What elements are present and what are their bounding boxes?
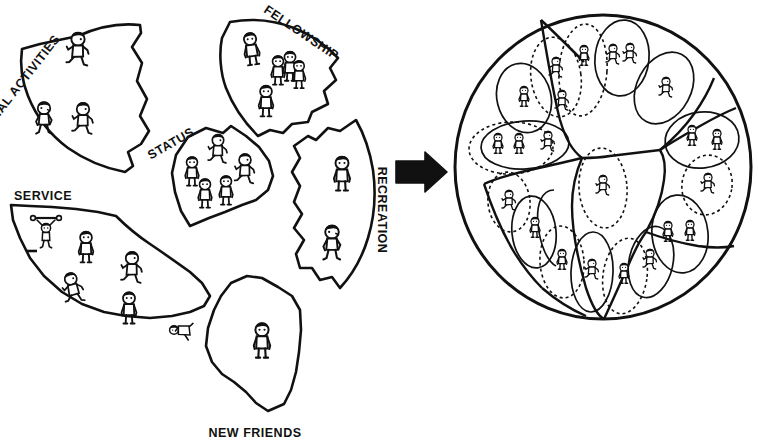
assembled-whole-circle[interactable] xyxy=(455,15,751,319)
diagram-canvas: SPECIAL ACTIVITIES FELLOWSHIP xyxy=(0,0,758,443)
wedge-label-recreation: RECREATION xyxy=(375,167,389,254)
wedge-label-new-friends: NEW FRIENDS xyxy=(209,426,302,440)
wedge-label-service: SERVICE xyxy=(14,189,72,203)
illustration-root: SPECIAL ACTIVITIES FELLOWSHIP xyxy=(0,0,758,443)
